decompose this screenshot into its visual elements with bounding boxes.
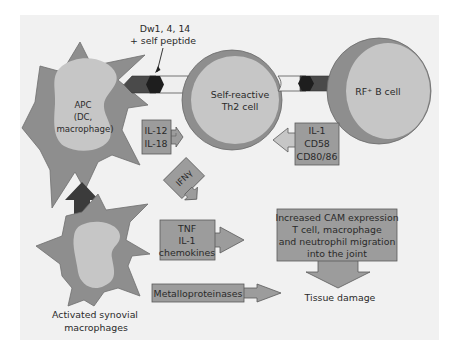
il18-label: IL-18 — [144, 138, 167, 149]
synovial-label-1: Activated synovial — [52, 309, 138, 320]
cam-label-4: into the joint — [307, 248, 367, 259]
il1-label-2: IL-1 — [178, 235, 195, 246]
apc-label-3: macrophage) — [56, 124, 113, 134]
cam-label-1: Increased CAM expression — [275, 212, 398, 223]
th2-label-1: Self-reactive — [211, 89, 270, 100]
metalloproteinases-box: Metalloproteinases — [152, 284, 281, 302]
apc-label-1: APC — [74, 100, 91, 110]
mhc-label-1: Dw1, 4, 14 — [140, 23, 191, 34]
il12-label: IL-12 — [144, 125, 167, 136]
th2-label-2: Th2 cell — [221, 101, 259, 112]
metalloproteinases-label: Metalloproteinases — [154, 288, 243, 299]
cam-label-2: T cell, macrophage — [291, 224, 382, 235]
apc-th2-receptor — [124, 76, 188, 93]
tissue-damage-label: Tissue damage — [304, 292, 376, 303]
apc-label-2: (DC, — [74, 112, 93, 122]
synovial-label-2: macrophages — [64, 322, 128, 333]
tnf-label: TNF — [177, 223, 196, 234]
ra-pathogenesis-diagram: APC (DC, macrophage) Dw1, 4, 14 + self p… — [0, 0, 459, 354]
bcell-label: RF⁺ B cell — [355, 86, 400, 97]
cd80-86-label: CD80/86 — [297, 151, 338, 162]
cam-label-3: and neutrophil migration — [279, 236, 396, 247]
rf-b-cell: RF⁺ B cell — [327, 38, 431, 144]
cd58-label: CD58 — [304, 138, 330, 149]
diagram-canvas: APC (DC, macrophage) Dw1, 4, 14 + self p… — [0, 0, 459, 354]
chemokines-label: chemokines — [159, 247, 215, 258]
il1-label: IL-1 — [308, 125, 325, 136]
th2-cell: Self-reactive Th2 cell — [182, 50, 282, 150]
mhc-label-2: + self peptide — [130, 35, 196, 46]
